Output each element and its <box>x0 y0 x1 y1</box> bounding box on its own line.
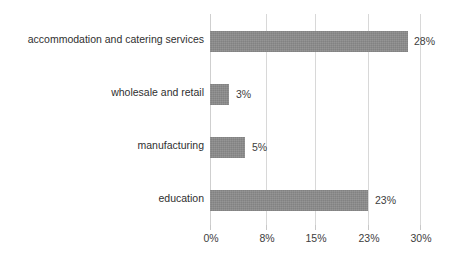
category-axis-labels: accommodation and catering services whol… <box>0 14 204 225</box>
bar-manufacturing <box>210 137 245 158</box>
plot-area: 28% 3% 5% 23% <box>210 14 420 225</box>
category-label: manufacturing <box>0 137 204 153</box>
bar-row: 23% <box>210 173 420 226</box>
tick-mark-30 <box>420 225 421 230</box>
bar-row: 5% <box>210 120 420 173</box>
bar-accommodation-and-catering-services <box>210 31 408 52</box>
x-tick-label-0: 0% <box>203 231 218 245</box>
bar-row: 3% <box>210 67 420 120</box>
bar-value-label: 3% <box>236 86 251 102</box>
x-axis-tick-labels: 0% 8% 15% 23% 30% <box>0 231 451 247</box>
x-tick-label-23: 23% <box>358 231 379 245</box>
x-tick-label-15: 15% <box>305 231 326 245</box>
bar-value-label: 28% <box>414 33 435 49</box>
bar-chart: accommodation and catering services whol… <box>0 0 451 265</box>
category-label: accommodation and catering services <box>0 31 204 47</box>
category-label: wholesale and retail <box>0 84 204 100</box>
bar-value-label: 23% <box>375 192 396 208</box>
bar-wholesale-and-retail <box>210 84 229 105</box>
category-label: education <box>0 190 204 206</box>
x-tick-label-8: 8% <box>259 231 274 245</box>
x-tick-label-30: 30% <box>410 231 431 245</box>
bar-value-label: 5% <box>252 139 267 155</box>
bar-education <box>210 190 368 211</box>
bar-row: 28% <box>210 14 420 67</box>
